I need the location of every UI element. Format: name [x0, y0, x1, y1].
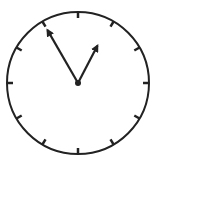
- hour-tick: [17, 116, 22, 119]
- center-pivot: [75, 80, 81, 86]
- hour-hand: [78, 46, 97, 83]
- hour-tick: [111, 139, 114, 144]
- hour-tick: [17, 48, 22, 51]
- hour-tick: [111, 22, 114, 27]
- hour-tick: [134, 116, 139, 119]
- hour-tick: [43, 22, 46, 27]
- clock-diagram: [0, 0, 213, 213]
- hour-tick: [43, 139, 46, 144]
- hour-tick: [134, 48, 139, 51]
- minute-hand: [48, 30, 79, 83]
